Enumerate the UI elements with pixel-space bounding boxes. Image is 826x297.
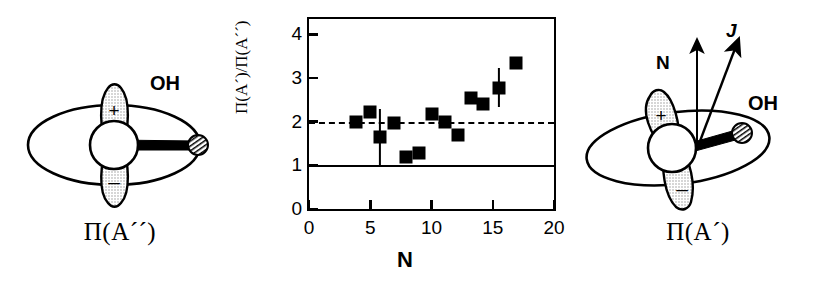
vector-label-n: N [656, 52, 670, 74]
reference-line-y-1 [309, 165, 554, 167]
y-axis-label: Π(A´)/Π(A´´) [232, 21, 252, 114]
x-axis-tick [553, 200, 556, 209]
orbital-diagram-right-svg: + – [570, 0, 826, 297]
data-point [374, 130, 387, 143]
lobe-minus-sign: – [108, 170, 120, 193]
orbital-diagram-pi-a-prime: + – N J OH Π(A´) [570, 0, 826, 297]
data-point [510, 56, 523, 69]
y-axis-tick-label: 4 [291, 23, 302, 45]
lobe-plus-sign: + [655, 105, 666, 126]
data-point [452, 129, 465, 142]
data-point [399, 151, 412, 164]
data-point [438, 115, 451, 128]
data-point [492, 81, 505, 94]
orbital-diagram-left-svg: + – [0, 0, 240, 297]
scatter-plot-panel: Π(A´)/Π(A´´) 0123405101520 N [240, 0, 570, 297]
chart-plot-area: 0123405101520 [309, 19, 554, 209]
x-axis-tick [492, 200, 495, 209]
data-point [413, 146, 426, 159]
hydrogen-atom [188, 135, 208, 155]
data-point [387, 116, 400, 129]
y-axis-tick-label: 0 [291, 198, 302, 220]
caption-pi-a-prime: Π(A´) [570, 218, 826, 246]
y-axis-tick [309, 208, 318, 211]
data-point [425, 108, 438, 121]
caption-pi-a-double-prime: Π(A´´) [0, 218, 240, 246]
data-point [349, 115, 362, 128]
y-axis-tick-label: 1 [291, 154, 302, 176]
oxygen-atom [90, 121, 138, 169]
figure-root: + – OH Π(A´´) Π(A´)/Π(A´´) 0123405101520… [0, 0, 826, 297]
data-point [464, 91, 477, 104]
lobe-plus-sign: + [108, 100, 119, 121]
x-axis-tick-label: 5 [365, 217, 376, 239]
x-axis-tick-label: 20 [543, 217, 564, 239]
chart-plot-frame: 0123405101520 [307, 17, 556, 211]
data-point [476, 98, 489, 111]
molecule-label-oh-right: OH [748, 92, 778, 115]
x-axis-tick [369, 200, 372, 209]
x-axis-tick-label: 15 [482, 217, 503, 239]
orbital-diagram-pi-a-double-prime: + – OH Π(A´´) [0, 0, 240, 297]
reference-line-y-2 [309, 122, 554, 124]
molecule-label-oh-left: OH [150, 72, 180, 95]
data-point [364, 106, 377, 119]
y-axis-tick-label: 2 [291, 111, 302, 133]
vector-label-j: J [726, 20, 737, 42]
oxygen-atom [648, 124, 696, 172]
y-axis-tick [309, 33, 318, 36]
x-axis-tick [430, 200, 433, 209]
y-axis-tick-label: 3 [291, 67, 302, 89]
lobe-minus-sign: – [676, 177, 688, 200]
x-axis-tick-label: 10 [421, 217, 442, 239]
y-axis-tick [309, 77, 318, 80]
x-axis-tick [308, 200, 311, 209]
x-axis-label: N [397, 247, 413, 273]
hydrogen-atom [732, 123, 752, 143]
x-axis-tick-label: 0 [304, 217, 315, 239]
